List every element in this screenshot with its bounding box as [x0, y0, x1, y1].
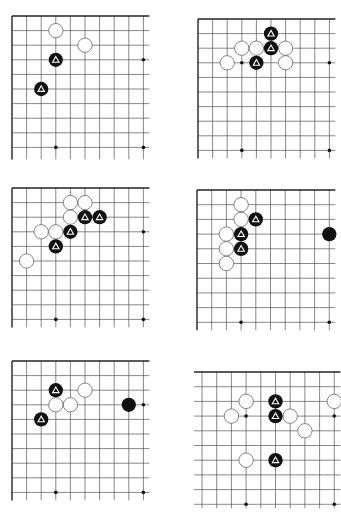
board-4: [197, 190, 337, 330]
white-stone-icon: [224, 409, 238, 423]
white-stone-icon: [283, 409, 297, 423]
white-stone-icon: [63, 210, 77, 224]
black-stone-icon: [34, 82, 48, 96]
black-stone-icon: [49, 239, 63, 253]
white-stone-icon: [234, 212, 248, 226]
white-stone-icon: [219, 256, 233, 270]
black-stone-icon: [268, 453, 282, 467]
star-point-icon: [54, 491, 58, 495]
white-stone-icon: [298, 424, 312, 438]
black-stone-icon: [249, 56, 263, 70]
marked-black-stone: [34, 82, 48, 96]
star-point-icon: [240, 149, 244, 153]
marked-black-stone: [78, 210, 92, 224]
white-stone-icon: [234, 197, 248, 211]
star-point-icon: [328, 61, 332, 65]
white-stone-icon: [49, 398, 63, 412]
white-stone-icon: [63, 398, 77, 412]
marked-black-stone: [249, 212, 263, 226]
star-point-icon: [142, 403, 146, 407]
marked-black-stone: [234, 227, 248, 241]
white-stone-icon: [34, 225, 48, 239]
black-stone-icon: [34, 412, 48, 426]
star-point-icon: [142, 230, 146, 234]
diagram-sheet: [0, 0, 341, 515]
marked-black-stone: [49, 383, 63, 397]
star-point-icon: [142, 318, 146, 322]
boards-canvas: [0, 0, 341, 515]
star-point-icon: [240, 61, 244, 65]
star-point-icon: [333, 503, 337, 507]
black-stone-icon: [268, 394, 282, 408]
white-stone-icon: [278, 41, 292, 55]
white-stone-icon: [49, 23, 63, 37]
marked-black-stone: [92, 210, 106, 224]
black-stone-icon: [249, 212, 263, 226]
white-stone-icon: [78, 38, 92, 52]
white-stone-icon: [49, 225, 63, 239]
star-point-icon: [333, 414, 337, 418]
marked-black-stone: [264, 26, 278, 40]
star-point-icon: [54, 318, 58, 322]
star-point-icon: [328, 149, 332, 153]
black-stone-icon: [264, 26, 278, 40]
black-stone-icon: [122, 398, 136, 412]
black-stone-icon: [264, 41, 278, 55]
white-stone-icon: [219, 242, 233, 256]
marked-black-stone: [49, 239, 63, 253]
white-stone-icon: [278, 56, 292, 70]
marked-black-stone: [63, 225, 77, 239]
black-stone-icon: [268, 409, 282, 423]
black-stone-icon: [78, 210, 92, 224]
white-stone-icon: [249, 41, 263, 55]
black-stone-icon: [92, 210, 106, 224]
star-point-icon: [54, 146, 58, 150]
black-stone-icon: [234, 227, 248, 241]
white-stone-icon: [78, 195, 92, 209]
white-stone-icon: [235, 41, 249, 55]
star-point-icon: [142, 146, 146, 150]
marked-black-stone: [264, 41, 278, 55]
board-6: [194, 372, 341, 508]
black-stone-icon: [322, 227, 336, 241]
star-point-icon: [142, 491, 146, 495]
white-stone-icon: [327, 394, 341, 408]
white-stone-icon: [78, 383, 92, 397]
white-stone-icon: [239, 453, 253, 467]
star-point-icon: [239, 321, 243, 325]
marked-black-stone: [268, 394, 282, 408]
black-stone-icon: [49, 383, 63, 397]
marked-black-stone: [34, 412, 48, 426]
white-stone-icon: [219, 227, 233, 241]
black-stone-icon: [234, 242, 248, 256]
white-stone-icon: [63, 195, 77, 209]
black-stone-icon: [49, 53, 63, 67]
marked-black-stone: [249, 56, 263, 70]
star-point-icon: [142, 58, 146, 62]
marked-black-stone: [49, 53, 63, 67]
white-stone-icon: [220, 56, 234, 70]
marked-black-stone: [268, 453, 282, 467]
white-stone-icon: [239, 394, 253, 408]
board-3: [12, 188, 149, 327]
star-point-icon: [244, 414, 248, 418]
white-stone-icon: [19, 254, 33, 268]
board-1: [12, 16, 149, 159]
star-point-icon: [244, 503, 248, 507]
marked-black-stone: [268, 409, 282, 423]
black-stone-icon: [63, 225, 77, 239]
star-point-icon: [328, 321, 332, 325]
marked-black-stone: [234, 242, 248, 256]
board-5: [12, 361, 149, 500]
board-2: [198, 19, 335, 158]
